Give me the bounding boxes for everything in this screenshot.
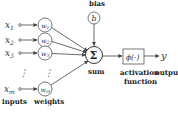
- input-node-icon: [19, 24, 22, 27]
- sum-label: sum: [88, 67, 105, 76]
- output-label: output: [155, 68, 178, 77]
- weights-label: weights: [33, 97, 64, 106]
- activation-label: activation: [120, 68, 159, 77]
- input-label-1: x1: [5, 20, 14, 31]
- input-row-m: xm wm: [4, 61, 88, 96]
- perceptron-diagram: x1 w1 x2 w2 x3 w3 ⋮ ⋮ xm wm bias b Σ: [0, 0, 178, 114]
- bias-symbol: b: [92, 14, 97, 23]
- input-node-icon: [19, 39, 22, 42]
- sum-symbol: Σ: [90, 49, 98, 62]
- input-label-m: xm: [4, 84, 15, 95]
- inputs-label: inputs: [2, 97, 27, 106]
- input-node-icon: [19, 52, 22, 55]
- activation-symbol: ϕ(·): [126, 53, 139, 62]
- bias-label: bias: [89, 0, 105, 8]
- weight-ellipsis: ⋮: [44, 68, 53, 78]
- function-label: function: [124, 77, 157, 86]
- input-node-icon: [19, 88, 22, 91]
- output-symbol: y: [160, 50, 167, 61]
- input-label-2: x2: [5, 35, 14, 46]
- input-ellipsis: ⋮: [19, 68, 28, 78]
- input-label-3: x3: [5, 48, 14, 59]
